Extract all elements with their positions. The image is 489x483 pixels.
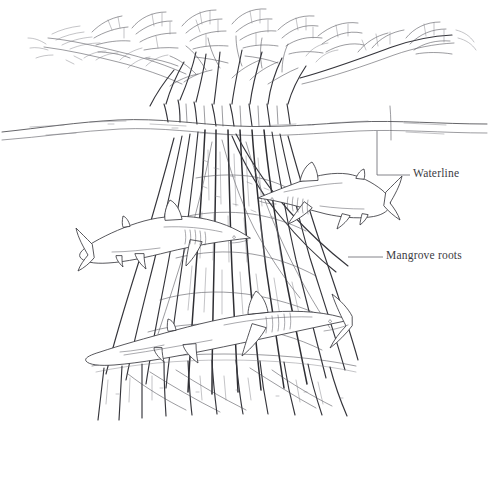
- leader-line-waterline: [377, 131, 410, 175]
- shark-left: [76, 200, 250, 271]
- label-waterline: Waterline: [413, 168, 459, 180]
- label-mangrove-roots: Mangrove roots: [386, 250, 462, 262]
- mangrove-canopy: [28, 9, 476, 106]
- seafloor: [92, 354, 356, 420]
- mangrove-illustration: .ln { fill:none; stroke:#3d3d42; stroke-…: [0, 0, 489, 483]
- scene-drawing: .ln { fill:none; stroke:#3d3d42; stroke-…: [0, 0, 489, 483]
- shark-right: [258, 162, 402, 229]
- water-surface-line: [2, 120, 487, 140]
